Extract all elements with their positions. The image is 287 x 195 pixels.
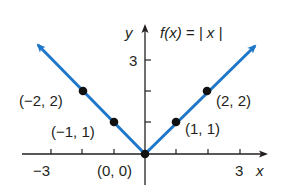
x-tick-label-3: 3: [235, 162, 243, 179]
point-label-origin: (0, 0): [97, 162, 132, 179]
point-label-1-1: (1, 1): [185, 120, 220, 137]
point-neg2-2: [79, 87, 88, 96]
y-axis-label: y: [124, 24, 134, 41]
y-tick-label-3: 3: [129, 52, 137, 69]
point-label-neg1-1: (−1, 1): [51, 123, 95, 140]
x-tick-label-neg3: −3: [33, 162, 50, 179]
point-origin: [141, 150, 150, 159]
abs-value-chart: y f(x) = | x | 3 −3 3 x (−2, 2) (−1, 1) …: [0, 0, 287, 195]
point-label-neg2-2: (−2, 2): [19, 92, 63, 109]
point-neg1-1: [110, 118, 119, 127]
point-label-2-2: (2, 2): [216, 92, 251, 109]
y-ticks: [145, 60, 151, 122]
point-1-1: [172, 118, 181, 127]
x-axis-label: x: [255, 162, 264, 179]
point-2-2: [203, 87, 212, 96]
function-label: f(x) = | x |: [160, 24, 222, 41]
